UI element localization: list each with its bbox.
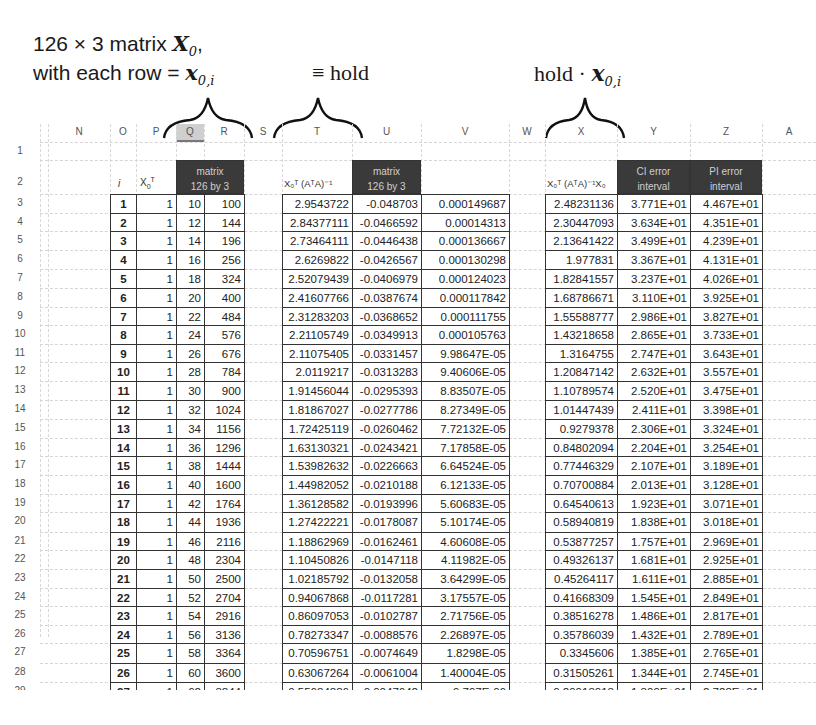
table-cell-p[interactable]: 1: [136, 400, 177, 421]
table-cell-v[interactable]: 4.11982E-05: [421, 550, 510, 570]
table-cell-i[interactable]: 21: [110, 569, 137, 589]
table-cell-q[interactable]: 56: [176, 625, 205, 645]
row-number[interactable]: 27: [0, 643, 40, 661]
table-cell-p[interactable]: 1: [136, 213, 177, 233]
table-cell-p[interactable]: 1: [136, 250, 177, 271]
table-cell-u[interactable]: -0.0226663: [352, 456, 422, 476]
table-cell-q[interactable]: 32: [176, 400, 205, 421]
row-number[interactable]: 10: [0, 325, 40, 343]
table-cell-q[interactable]: 30: [176, 381, 205, 401]
table-cell-x[interactable]: 0.31505261: [545, 663, 618, 683]
table-cell-y[interactable]: 1.838E+01: [617, 512, 691, 533]
table-cell-v[interactable]: 5.10174E-05: [421, 512, 510, 533]
table-cell-v[interactable]: 7.72132E-05: [421, 419, 510, 439]
table-cell-p[interactable]: 1: [136, 288, 177, 308]
column-header-y[interactable]: Y: [617, 124, 690, 140]
table-cell-p[interactable]: 1: [136, 625, 177, 645]
table-cell-t[interactable]: 0.94067868: [282, 588, 353, 608]
table-cell-r[interactable]: 576: [204, 325, 245, 345]
table-cell-v[interactable]: 3.64299E-05: [421, 569, 510, 589]
table-cell-v[interactable]: 0.000136667: [421, 231, 510, 251]
table-cell-u[interactable]: -0.0406979: [352, 269, 422, 289]
table-cell-z[interactable]: 2.849E+01: [690, 588, 763, 608]
table-cell-v[interactable]: 0.00014313: [421, 213, 510, 233]
table-cell-t[interactable]: 0.78273347: [282, 625, 353, 645]
table-cell-z[interactable]: 3.398E+01: [690, 400, 763, 421]
table-cell-z[interactable]: 2.745E+01: [690, 663, 763, 683]
table-cell-r[interactable]: 400: [204, 288, 245, 308]
table-cell-v[interactable]: 8.83507E-05: [421, 381, 510, 401]
row-number[interactable]: 8: [0, 288, 40, 306]
table-cell-t[interactable]: 0.70596751: [282, 643, 353, 664]
table-cell-r[interactable]: 256: [204, 250, 245, 271]
column-header-t[interactable]: T: [282, 124, 352, 140]
table-cell-x[interactable]: 0.45264117: [545, 569, 618, 589]
row-number[interactable]: 25: [0, 606, 40, 624]
table-cell-r[interactable]: 2304: [204, 550, 245, 570]
table-cell-u[interactable]: -0.0061004: [352, 663, 422, 683]
table-cell-i[interactable]: 17: [110, 494, 137, 514]
table-cell-i[interactable]: 6: [110, 288, 137, 308]
table-cell-q[interactable]: 14: [176, 231, 205, 251]
table-cell-u[interactable]: -0.0331457: [352, 344, 422, 364]
table-cell-i[interactable]: 1: [110, 194, 137, 214]
row-number[interactable]: 19: [0, 494, 40, 512]
row-number[interactable]: 17: [0, 456, 40, 474]
table-cell-x[interactable]: 2.48231136: [545, 194, 618, 214]
table-cell-p[interactable]: 1: [136, 344, 177, 364]
table-cell-t[interactable]: 1.72425119: [282, 419, 353, 439]
table-cell-z[interactable]: 4.351E+01: [690, 213, 763, 233]
table-cell-r[interactable]: 2116: [204, 532, 245, 552]
table-cell-x[interactable]: 0.53877257: [545, 532, 618, 552]
table-cell-v[interactable]: 2.26897E-05: [421, 625, 510, 645]
table-cell-p[interactable]: 1: [136, 475, 177, 495]
table-cell-x[interactable]: 0.64540613: [545, 494, 618, 514]
table-cell-z[interactable]: 2.765E+01: [690, 643, 763, 664]
table-cell-v[interactable]: 6.12133E-05: [421, 475, 510, 495]
table-cell-t[interactable]: 1.10450826: [282, 550, 353, 570]
table-cell-p[interactable]: 1: [136, 569, 177, 589]
table-cell-r[interactable]: 324: [204, 269, 245, 289]
table-cell-r[interactable]: 676: [204, 344, 245, 364]
table-cell-q[interactable]: 20: [176, 288, 205, 308]
table-cell-t[interactable]: 2.84377111: [282, 213, 353, 233]
table-cell-p[interactable]: 1: [136, 532, 177, 552]
table-cell-i[interactable]: 19: [110, 532, 137, 552]
table-cell-x[interactable]: 1.10789574: [545, 381, 618, 401]
table-cell-u[interactable]: -0.0088576: [352, 625, 422, 645]
table-cell-y[interactable]: 3.110E+01: [617, 288, 691, 308]
table-cell-v[interactable]: 1.8298E-05: [421, 643, 510, 664]
table-cell-z[interactable]: 4.239E+01: [690, 231, 763, 251]
table-cell-u[interactable]: -0.0368652: [352, 307, 422, 327]
column-header-z[interactable]: Z: [690, 124, 762, 140]
table-cell-i[interactable]: 16: [110, 475, 137, 495]
table-cell-i[interactable]: 25: [110, 643, 137, 664]
table-cell-q[interactable]: 58: [176, 643, 205, 664]
row-number[interactable]: 18: [0, 475, 40, 493]
table-cell-v[interactable]: 0.000111755: [421, 307, 510, 327]
table-cell-q[interactable]: 46: [176, 532, 205, 552]
row-number[interactable]: 7: [0, 269, 40, 287]
table-cell-z[interactable]: 4.131E+01: [690, 250, 763, 271]
table-cell-x[interactable]: 2.13641422: [545, 231, 618, 251]
row-number[interactable]: 3: [0, 194, 40, 212]
table-cell-q[interactable]: 52: [176, 588, 205, 608]
column-header-n[interactable]: N: [48, 124, 110, 140]
column-header-p[interactable]: P: [136, 124, 176, 140]
table-cell-x[interactable]: 0.35786039: [545, 625, 618, 645]
table-cell-r[interactable]: 484: [204, 307, 245, 327]
table-cell-v[interactable]: 7.17858E-05: [421, 438, 510, 458]
table-cell-x[interactable]: 1.01447439: [545, 400, 618, 421]
table-cell-t[interactable]: 2.9543722: [282, 194, 353, 214]
table-cell-p[interactable]: 1: [136, 438, 177, 458]
table-cell-i[interactable]: 22: [110, 588, 137, 608]
table-cell-u[interactable]: -0.0132058: [352, 569, 422, 589]
table-cell-x[interactable]: 0.38516278: [545, 606, 618, 626]
table-cell-u[interactable]: -0.0446438: [352, 231, 422, 251]
table-cell-v[interactable]: 9.40606E-05: [421, 362, 510, 382]
table-cell-x[interactable]: 1.977831: [545, 250, 618, 271]
table-cell-r[interactable]: 2704: [204, 588, 245, 608]
column-header-o[interactable]: O: [110, 124, 136, 140]
table-cell-q[interactable]: 22: [176, 307, 205, 327]
table-cell-y[interactable]: 2.107E+01: [617, 456, 691, 476]
